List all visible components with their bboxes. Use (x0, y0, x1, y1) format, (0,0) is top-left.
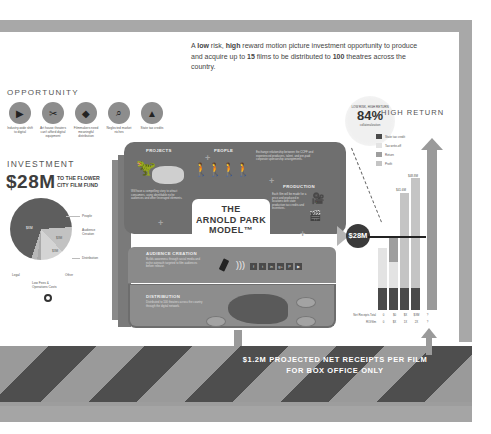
pie-label-low-left: Legal (12, 273, 20, 277)
legend-label: Tax write-off (385, 144, 401, 148)
bar-label: $41.6M (396, 188, 406, 192)
footer-line1: $1.2M PROJECTED NET RECEIPTS PER FILM (240, 354, 430, 365)
people-body: Exchange relationship between the CCFF a… (256, 151, 316, 162)
row-header: Net Receipts Total (352, 313, 378, 317)
frame-right (459, 20, 472, 342)
row-header: ROI/film (352, 320, 378, 324)
distribution-body: Distributed to 100 theatres across the c… (146, 301, 204, 308)
intro-text: A low risk, high reward motion picture i… (191, 41, 421, 73)
opportunity-item: ◆ Filmmakers need meaningful distributio… (74, 102, 98, 138)
opportunity-title: OPPORTUNITY (7, 88, 79, 97)
video-icon: ▶ (295, 263, 302, 270)
model-title-line1: THE (192, 204, 270, 215)
row-value: $0 (389, 313, 400, 317)
row-value: $X (389, 320, 400, 324)
row-value: 2X (411, 320, 422, 324)
pie-leader-line (66, 216, 80, 217)
intro-high: high (226, 42, 241, 49)
bar-segment (389, 238, 398, 262)
opportunity-icons: ▶ Industry-wide shift to digital ✂ Art h… (8, 102, 164, 138)
investment-sub-line2: CITY FILM FUND (57, 182, 100, 189)
model-title-line3: MODEL™ (192, 225, 270, 236)
opportunity-item: ✂ Art house theaters can't afford digita… (41, 102, 65, 138)
facebook-icon: f (250, 263, 257, 270)
badge-caption: collateralization (345, 123, 395, 127)
pie-label-people: People (82, 214, 92, 218)
signal-waves-icon: ))) (236, 260, 245, 270)
footer-caption: $1.2M PROJECTED NET RECEIPTS PER FILM FO… (240, 354, 430, 376)
bar-segment (389, 262, 398, 288)
plus-icon: + (205, 153, 210, 163)
production-body: Each film will be made for a price and p… (272, 193, 308, 211)
audience-heading: AUDIENCE CREATION (146, 251, 197, 256)
row-value: ? (422, 313, 433, 317)
usa-map-icon (228, 294, 288, 324)
intro-films-count: 15 (247, 53, 255, 60)
bar-segment (400, 193, 409, 288)
pie-value-people: $XM (26, 226, 33, 230)
bar-segment (400, 288, 409, 310)
opportunity-item: ▶ Industry-wide shift to digital (8, 102, 32, 138)
book-icon (152, 166, 184, 184)
return-bar-chart: $41.6M $48.8M (378, 150, 428, 310)
pie-label-distribution: Distribution (82, 256, 98, 260)
play-icon: ▶ (9, 102, 31, 124)
pie-value-distribution: $3M (52, 249, 58, 253)
row-value: $XM (411, 313, 422, 317)
legend-swatch (376, 143, 382, 148)
bar (378, 248, 387, 310)
intro-mid1: risk, (209, 42, 226, 49)
opportunity-label: State tax credits (138, 126, 166, 130)
opportunity-item: ▲ State tax credits (140, 102, 164, 138)
net-receipts-row: Net Receipts Total 0 $0 $X $XM ? (352, 313, 433, 317)
bar (411, 178, 420, 310)
bar-segment (411, 178, 420, 288)
opportunity-label: Art house theaters can't afford digital … (39, 126, 67, 138)
bar-label: $48.8M (408, 174, 418, 178)
capitol-icon: ▲ (141, 102, 163, 124)
pie-value-audience: $3M (56, 236, 62, 240)
opportunity-label: Filmmakers need meaningful distribution (72, 126, 100, 138)
legend-swatch (376, 134, 382, 139)
row-value: 0 (378, 313, 389, 317)
pinterest-icon: P (286, 263, 293, 270)
bar-segment (389, 288, 398, 310)
roi-row: ROI/film 0 $X 1X 2X ? (352, 320, 433, 324)
pie-label-low-right: Other (65, 273, 73, 277)
clapperboard-icon: 🎬 (309, 210, 321, 221)
projects-body: Will have a compelling story to attract … (131, 190, 187, 201)
investment-amount: $28M (6, 171, 56, 193)
bar (389, 238, 398, 310)
projects-heading: PROJECTS (146, 148, 172, 153)
twitter-icon: t (259, 263, 266, 270)
pie-label-audience: Audience Creation (82, 228, 106, 236)
investment-coin: $28M (346, 224, 370, 248)
audience-body: Builds awareness through social media an… (146, 258, 204, 269)
bar-segment (411, 288, 420, 310)
baseline-28m (368, 236, 426, 238)
plus-icon: + (158, 218, 163, 228)
bar-segment (378, 288, 387, 310)
film-reel-icon: ✂ (42, 102, 64, 124)
social-icons: f t in g+ P ▶ (250, 263, 302, 270)
frame-top (0, 20, 472, 32)
theater-badge (296, 297, 316, 308)
theater-badge (206, 316, 226, 327)
model-title-box: THE ARNOLD PARK MODEL™ (192, 199, 270, 251)
row-value: 0 (378, 320, 389, 324)
distribution-heading: DISTRIBUTION (146, 294, 180, 299)
model-title-line2: ARNOLD PARK (192, 215, 270, 226)
high-return-title: HIGH RETURN (381, 108, 444, 117)
plus-icon: + (300, 229, 305, 239)
row-value: $X (400, 313, 411, 317)
intro-theatres-count: 100 (333, 53, 345, 60)
bar (400, 193, 409, 310)
frame-bottom (0, 406, 472, 422)
row-value: ? (422, 320, 433, 324)
theater-badge (296, 316, 316, 327)
plus-icon: + (269, 176, 274, 186)
legend-item: Tax write-off (376, 141, 405, 150)
opportunity-label: Neglected market niches (105, 126, 133, 134)
return-arrow (427, 147, 437, 310)
footer-line2: FOR BOX OFFICE ONLY (240, 365, 430, 376)
